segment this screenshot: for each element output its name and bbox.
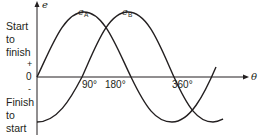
tick-label-90: 90° <box>82 79 97 91</box>
minus-sign: - <box>28 83 31 95</box>
finish-to-start-label: Finish to start <box>6 96 34 135</box>
plus-sign: + <box>27 58 32 70</box>
tick-label-360: 360° <box>172 79 193 91</box>
start-to-finish-label: Start to finish <box>6 20 31 59</box>
x-axis-arrow-icon <box>243 75 249 80</box>
origin-label: 0 <box>26 71 32 83</box>
y-axis-arrow-icon <box>35 1 40 7</box>
y-axis-label: e <box>42 0 48 11</box>
tick-label-180: 180° <box>105 79 126 91</box>
x-axis-label: θ <box>251 71 257 83</box>
curve-label-e-b: eB <box>122 6 132 19</box>
waveform-diagram <box>0 0 261 138</box>
curve-label-e-a: eA <box>78 6 88 19</box>
